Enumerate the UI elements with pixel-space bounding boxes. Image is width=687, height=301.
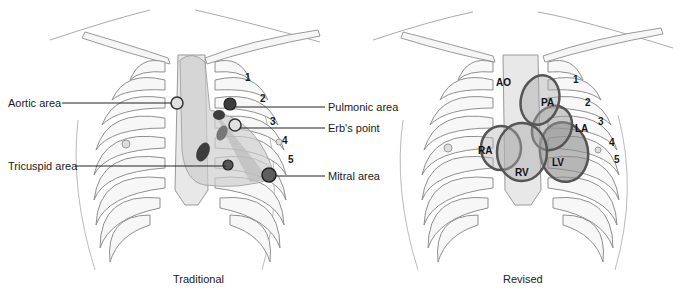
rib-number-3: 3 (270, 117, 276, 127)
ribcage-illustration-revised (343, 0, 687, 301)
revised-panel: AO PA LA RA RV LV 1 2 3 4 5 Revised (343, 0, 687, 301)
pulmonic-marker (224, 98, 236, 110)
rib-number-3: 3 (598, 117, 604, 127)
rib-number-4: 4 (282, 136, 288, 146)
tricuspid-area-label: Tricuspid area (8, 160, 77, 172)
traditional-caption: Traditional (173, 273, 224, 285)
rib-number-5: 5 (288, 155, 294, 165)
revised-caption: Revised (503, 273, 543, 285)
ribcage-illustration-traditional (0, 0, 343, 301)
erbs-point-marker (229, 119, 241, 131)
la-label: LA (575, 124, 588, 134)
rib-number-5: 5 (614, 155, 620, 165)
ao-label: AO (496, 78, 511, 88)
rib-number-2: 2 (585, 98, 591, 108)
lv-label: LV (552, 158, 564, 168)
ra-label: RA (478, 146, 492, 156)
rib-number-1: 1 (245, 73, 251, 83)
rib-number-4: 4 (609, 138, 615, 148)
rib-number-2: 2 (260, 94, 266, 104)
rv-label: RV (515, 168, 529, 178)
aortic-marker (171, 97, 183, 109)
tricuspid-marker (223, 160, 233, 170)
rib-number-1: 1 (573, 75, 579, 85)
mitral-marker (262, 168, 276, 182)
pa-label: PA (541, 98, 554, 108)
traditional-panel: Aortic area Pulmonic area Erb's point Tr… (0, 0, 343, 301)
aortic-area-label: Aortic area (8, 97, 61, 109)
